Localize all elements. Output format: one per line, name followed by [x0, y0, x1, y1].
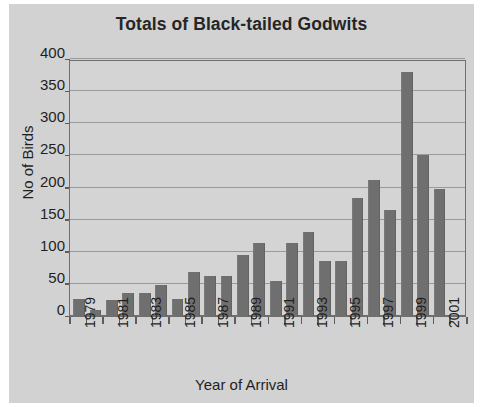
y-axis-tick-labels: 050100150200250300350400 [23, 60, 65, 317]
bar [270, 281, 282, 316]
x-tick-mark [268, 317, 270, 324]
y-tick-label: 200 [40, 172, 65, 189]
bar [335, 261, 347, 316]
bar-slot [366, 61, 382, 316]
bar-slot [169, 61, 185, 316]
x-tick-label: 1997 [380, 297, 396, 328]
bar-slot [268, 61, 284, 316]
bar-slot [399, 61, 415, 316]
y-tick-label: 150 [40, 204, 65, 221]
x-tick-label: 1981 [115, 297, 131, 328]
y-tick-label: 400 [40, 44, 65, 61]
bar-slot [202, 61, 218, 316]
x-tick-label: 1991 [281, 297, 297, 328]
chart-figure: Totals of Black-tailed Godwits No of Bir… [9, 4, 474, 403]
bar-slot [251, 61, 267, 316]
x-tick-mark [301, 317, 303, 324]
x-tick-mark [334, 317, 336, 324]
bar-slot [87, 61, 103, 316]
x-tick-mark [367, 317, 369, 324]
x-tick-mark [466, 317, 468, 324]
bar-slot [104, 61, 120, 316]
gridline [70, 58, 465, 59]
bar-series [70, 61, 465, 316]
y-tick-label: 250 [40, 140, 65, 157]
x-tick-mark [102, 317, 104, 324]
x-tick-mark [69, 317, 71, 324]
x-tick-label: 1985 [182, 297, 198, 328]
bar-slot [431, 61, 447, 316]
y-tick-label: 350 [40, 76, 65, 93]
bar-slot [235, 61, 251, 316]
bar-slot [120, 61, 136, 316]
x-axis-tick-labels: 1979198119831985198719891991199319951997… [69, 326, 466, 372]
bar-slot [349, 61, 365, 316]
bar-slot [333, 61, 349, 316]
y-tick-label: 50 [48, 268, 65, 285]
bar [417, 155, 429, 316]
bar-slot [137, 61, 153, 316]
chart-title: Totals of Black-tailed Godwits [9, 14, 474, 35]
bar [401, 72, 413, 316]
x-tick-label: 1979 [82, 297, 98, 328]
y-tick-label: 300 [40, 108, 65, 125]
bar-slot [300, 61, 316, 316]
y-tick-label: 0 [57, 301, 65, 318]
x-tick-label: 1989 [248, 297, 264, 328]
bar-slot [218, 61, 234, 316]
x-tick-label: 1999 [413, 297, 429, 328]
bar [303, 232, 315, 316]
x-tick-label: 1987 [215, 297, 231, 328]
x-axis-title: Year of Arrival [9, 376, 474, 393]
plot-inner [70, 61, 465, 316]
bar-slot [284, 61, 300, 316]
bar-slot [186, 61, 202, 316]
bar [434, 189, 446, 316]
x-tick-label: 2001 [446, 297, 462, 328]
x-tick-mark [201, 317, 203, 324]
x-tick-mark [234, 317, 236, 324]
plot-area [69, 60, 466, 317]
x-tick-mark [400, 317, 402, 324]
bar-slot [317, 61, 333, 316]
x-tick-label: 1993 [314, 297, 330, 328]
x-tick-label: 1983 [148, 297, 164, 328]
x-tick-mark [433, 317, 435, 324]
bar-slot [415, 61, 431, 316]
bar-slot [71, 61, 87, 316]
bar-slot [448, 61, 464, 316]
bar-slot [153, 61, 169, 316]
y-tick-label: 100 [40, 236, 65, 253]
bar-slot [382, 61, 398, 316]
x-tick-mark [135, 317, 137, 324]
x-tick-label: 1995 [347, 297, 363, 328]
x-tick-mark [168, 317, 170, 324]
bar [368, 180, 380, 316]
